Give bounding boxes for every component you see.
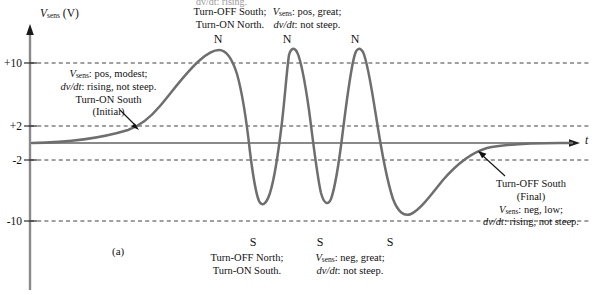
annotation-bottom-right-line2-variable: dv/dt [317, 265, 338, 276]
y-tick-label-minus2: -2 [0, 153, 22, 167]
annotation-bottom-right-line1-subscript: sens [322, 255, 335, 264]
part-label: (a) [112, 245, 124, 258]
peak-label-n-1: N [204, 32, 232, 47]
annotation-top-right-line1: Vsens: pos, great; [248, 6, 366, 19]
annotation-left-initial: Vsens: pos, modest; dv/dt: rising, not s… [36, 68, 181, 119]
annotation-bottom-right-line1-rest: : neg, great; [335, 252, 385, 263]
annotation-top-right-line2-variable: dv/dt [274, 19, 295, 30]
annotation-left-line1-rest: : pos, modest; [89, 68, 148, 79]
annotation-top-right-line1-subscript: sens [279, 9, 292, 18]
annotation-right-line3: Vsens: neg, low; [464, 204, 598, 217]
y-axis-arrowhead [26, 24, 34, 35]
y-axis-title-variable: V [40, 7, 47, 19]
y-axis-title-unit: (V) [63, 7, 79, 19]
x-axis-title: t [585, 133, 588, 147]
trough-label-s-1: S [239, 235, 267, 250]
trough-label-s-2: S [306, 235, 334, 250]
annotation-right-line4-variable: dv/dt [483, 216, 504, 227]
annotation-bottom-right-line2: dv/dt: not steep. [290, 265, 410, 278]
annotation-top-right-line2-rest: : not steep. [295, 19, 341, 30]
annotation-top-right-line1-rest: : pos, great; [292, 6, 341, 17]
annotation-left-line3: Turn-ON South [36, 94, 181, 107]
trough-label-s-3: S [376, 235, 404, 250]
annotation-left-line1: Vsens: pos, modest; [36, 68, 181, 81]
peak-label-n-2: N [273, 32, 301, 47]
annotation-right-final: Turn-OFF South (Final) Vsens: neg, low; … [464, 178, 598, 229]
annotation-left-line2-rest: : rising, not steep. [82, 81, 157, 92]
right-annotation-leader [482, 155, 505, 176]
peak-label-n-3: N [341, 32, 369, 47]
annotation-bottom-right-state: Vsens: neg, great; dv/dt: not steep. [290, 252, 410, 278]
annotation-right-line4: dv/dt: rising, not steep. [464, 216, 598, 229]
y-tick-label-minus10: -10 [0, 214, 22, 228]
annotation-left-line4: (Initial) [36, 106, 181, 119]
annotation-left-line1-subscript: sens [76, 71, 89, 80]
y-axis-title-subscript: sens [47, 11, 60, 20]
annotation-bottom-right-line1: Vsens: neg, great; [290, 252, 410, 265]
annotation-top-right-state: Vsens: pos, great; dv/dt: not steep. [248, 6, 366, 32]
waveform-figure: dv/dt: rising. Vsens (V) t +10 +2 -2 -10… [0, 0, 598, 295]
y-axis-title: Vsens (V) [40, 6, 79, 20]
annotation-left-line2: dv/dt: rising, not steep. [36, 81, 181, 94]
annotation-right-line3-rest: : neg, low; [518, 204, 563, 215]
annotation-left-line2-variable: dv/dt [61, 81, 82, 92]
annotation-right-line1: Turn-OFF South [464, 178, 598, 191]
annotation-right-line2: (Final) [464, 191, 598, 204]
annotation-bottom-right-line2-rest: : not steep. [338, 265, 384, 276]
annotation-right-line4-rest: : rising, not steep. [504, 216, 579, 227]
y-tick-label-plus10: +10 [0, 56, 22, 70]
annotation-top-right-line2: dv/dt: not steep. [248, 19, 366, 32]
annotation-right-line3-subscript: sens [505, 207, 518, 216]
y-tick-label-plus2: +2 [0, 119, 22, 133]
